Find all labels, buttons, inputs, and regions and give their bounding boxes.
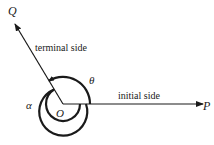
label-O: O	[56, 108, 64, 119]
angle-figure	[0, 0, 214, 145]
label-theta: θ	[89, 75, 94, 86]
label-initial-side: initial side	[118, 91, 160, 101]
terminal-side-ray	[15, 24, 63, 104]
label-terminal-side: terminal side	[35, 43, 87, 53]
label-alpha: α	[26, 100, 32, 111]
label-P: P	[203, 100, 210, 112]
label-Q: Q	[8, 5, 17, 17]
